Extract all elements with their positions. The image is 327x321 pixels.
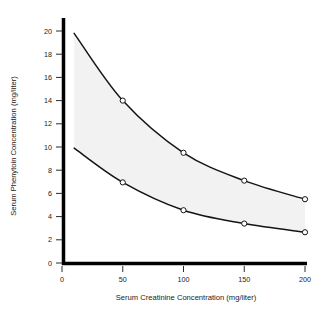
y-axis-ticks: 02468101214161820 (44, 27, 62, 268)
x-tick-label: 0 (60, 275, 64, 284)
data-point-marker (242, 221, 247, 226)
x-axis-ticks: 050100150200 (60, 266, 311, 284)
data-point-marker (120, 180, 125, 185)
x-axis-title: Serum Creatinine Concentration (mg/liter… (116, 293, 257, 302)
range-band-fill (74, 33, 305, 232)
data-point-marker (242, 178, 247, 183)
y-tick-label: 0 (48, 259, 52, 268)
data-point-marker (302, 197, 307, 202)
data-point-marker (181, 208, 186, 213)
x-tick-label: 100 (178, 275, 190, 284)
y-tick-label: 12 (44, 119, 52, 128)
y-axis-title: Serum Phenytoin Concentration (mg/liter) (9, 76, 18, 216)
y-tick-label: 8 (48, 166, 52, 175)
y-tick-label: 6 (48, 189, 52, 198)
chart-figure: 02468101214161820 050100150200 Serum Cre… (0, 0, 327, 321)
y-tick-label: 14 (44, 96, 52, 105)
chart-plot-area: 02468101214161820 050100150200 Serum Cre… (0, 0, 327, 321)
x-tick-label: 150 (238, 275, 250, 284)
y-tick-label: 20 (44, 27, 52, 36)
data-point-marker (181, 150, 186, 155)
y-tick-label: 2 (48, 235, 52, 244)
y-tick-label: 18 (44, 50, 52, 59)
data-point-marker (302, 230, 307, 235)
x-tick-label: 200 (299, 275, 311, 284)
y-tick-label: 4 (48, 212, 52, 221)
x-tick-label: 50 (119, 275, 127, 284)
y-tick-label: 10 (44, 143, 52, 152)
data-point-marker (120, 98, 125, 103)
y-tick-label: 16 (44, 73, 52, 82)
shaded-range-band (74, 33, 305, 232)
